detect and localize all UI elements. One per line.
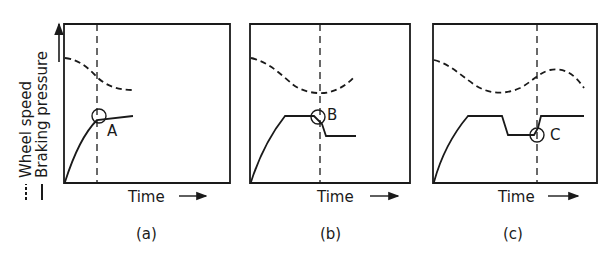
y-axis-legend: Wheel speed Braking pressure	[17, 24, 59, 200]
abs-diagram: Wheel speed Braking pressure A Time (a) …	[0, 0, 612, 261]
marker-label: A	[107, 122, 118, 140]
wheel-speed-curve	[65, 58, 133, 90]
panel-caption: (c)	[503, 225, 523, 243]
panel-caption: (a)	[136, 225, 157, 243]
marker-label: C	[550, 126, 560, 144]
marker-label: B	[327, 106, 337, 124]
braking-pressure-curve	[434, 116, 584, 182]
panel-caption: (b)	[320, 225, 341, 243]
panel-b: B Time (b)	[250, 24, 410, 243]
braking-pressure-curve	[251, 116, 356, 182]
x-axis-label: Time	[316, 188, 354, 206]
x-axis-label: Time	[127, 188, 165, 206]
wheel-speed-curve	[251, 58, 355, 93]
x-axis-label: Time	[497, 188, 535, 206]
marker-circle	[311, 110, 325, 124]
panel-a: A Time (a)	[64, 24, 230, 243]
braking-pressure-label: Braking pressure	[33, 51, 51, 178]
panel-c: C Time (c)	[433, 24, 597, 243]
braking-pressure-curve	[65, 116, 133, 182]
wheel-speed-curve	[434, 60, 584, 93]
marker-circle	[92, 109, 106, 123]
